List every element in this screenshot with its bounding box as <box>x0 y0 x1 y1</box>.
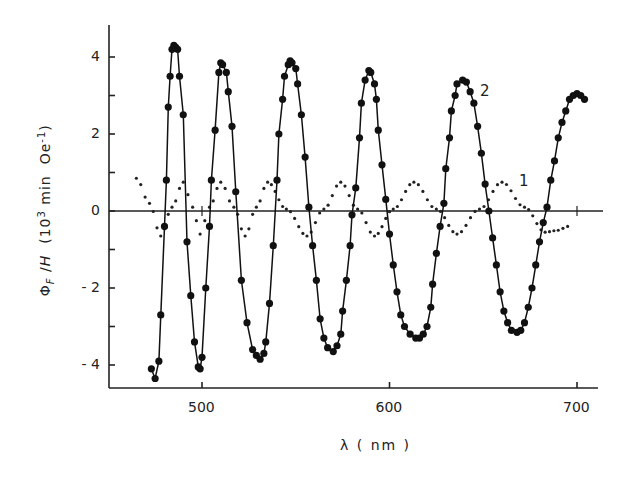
series-1-dotted <box>135 177 569 238</box>
y-tick-label: - 4 <box>82 356 100 372</box>
x-tick-label: 600 <box>376 399 403 415</box>
series-2-solid <box>148 42 588 382</box>
y-axis-label: ΦF /H (103 min Oe-1) <box>36 120 56 300</box>
series-2-label: 2 <box>480 82 490 100</box>
y-tick-label: 4 <box>91 48 100 64</box>
series-1-label: 1 <box>519 172 529 190</box>
x-tick-label: 500 <box>188 399 215 415</box>
y-tick-label: 0 <box>91 202 100 218</box>
x-tick-label: 700 <box>563 399 590 415</box>
x-axis-label: λ ( nm ) <box>340 437 411 453</box>
chart-plot-area <box>0 0 628 479</box>
axes <box>109 25 603 388</box>
y-tick-label: - 2 <box>82 279 100 295</box>
y-tick-label: 2 <box>91 125 100 141</box>
